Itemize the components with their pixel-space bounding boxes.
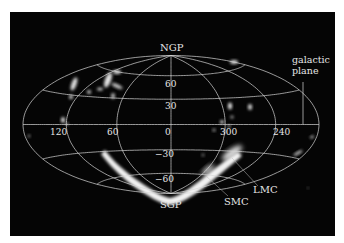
sgp-label: SGP <box>160 200 182 210</box>
galactic-plane-label-line2: plane <box>292 66 319 77</box>
ngp-label: NGP <box>160 43 183 53</box>
longitude-label-60: 60 <box>107 128 118 137</box>
smc-pointer <box>206 176 228 196</box>
latitude-label-0: 0 <box>165 128 171 137</box>
lmc-label: LMC <box>253 185 278 195</box>
coordinate-grid <box>23 56 319 194</box>
longitude-label-300: 300 <box>220 128 237 137</box>
latitude-label-30: 30 <box>165 102 176 111</box>
latitude-label-60: 60 <box>165 80 176 89</box>
latitude-label-minus-30: −30 <box>155 150 174 159</box>
longitude-label-240: 240 <box>273 128 290 137</box>
latitude-label-minus-60: −60 <box>155 175 174 184</box>
longitude-label-120: 120 <box>50 128 67 137</box>
smc-label: SMC <box>224 197 249 207</box>
